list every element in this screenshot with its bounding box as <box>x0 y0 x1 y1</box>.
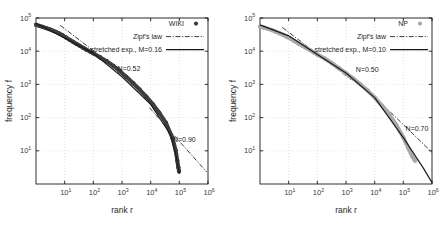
y-tick-label: 102 <box>20 112 31 122</box>
x-tick-label: 106 <box>428 187 439 197</box>
legend-label-stretched: stretched exp., M=0.10 <box>315 46 387 54</box>
y-tick-label: 102 <box>244 112 255 122</box>
gridlines <box>260 18 432 184</box>
y-tick-label: 103 <box>244 79 255 89</box>
legend-label-data: NP <box>398 20 408 27</box>
y-tick-label: 104 <box>20 46 31 56</box>
y-tick-label: 103 <box>20 79 31 89</box>
chart-svg-left: 101102103104105106101102103104105rank rf… <box>0 0 223 239</box>
figure-zipf-plots: 101102103104105106101102103104105rank rf… <box>0 0 447 239</box>
y-tick-label: 101 <box>20 145 31 155</box>
x-tick-label: 102 <box>313 187 324 197</box>
x-tick-label: 103 <box>342 187 353 197</box>
legend-marker-data <box>194 22 198 26</box>
legend-marker-data <box>418 22 422 26</box>
data-point <box>413 159 417 163</box>
legend-label-zipf: Zipf's law <box>133 33 163 41</box>
y-tick-label: 101 <box>244 145 255 155</box>
x-axis-title: rank r <box>335 205 357 215</box>
chart-svg-right: 101102103104105106101102103104105rank rf… <box>224 0 447 239</box>
annotation-label-2: N=0.70 <box>406 125 429 132</box>
legend-label-data: WIKI <box>169 20 184 27</box>
x-tick-label: 105 <box>399 187 410 197</box>
x-tick-label: 105 <box>175 187 186 197</box>
gridlines <box>36 18 208 184</box>
y-axis-title: frequency f <box>228 79 238 122</box>
x-tick-label: 101 <box>284 187 295 197</box>
x-axis-title: rank r <box>111 205 133 215</box>
y-tick-label: 105 <box>20 12 31 22</box>
x-tick-label: 103 <box>118 187 129 197</box>
annotations: N=0.52N=0.90 <box>118 65 196 144</box>
annotation-label-2: N=0.90 <box>173 136 196 143</box>
legend-label-stretched: stretched exp., M=0.16 <box>91 46 163 54</box>
y-tick-label: 105 <box>244 12 255 22</box>
axis-ticks: 101102103104105106101102103104105 <box>20 12 215 197</box>
annotation-label-1: N=0.50 <box>356 66 379 73</box>
x-tick-label: 104 <box>370 187 381 197</box>
x-tick-label: 102 <box>89 187 100 197</box>
legend-label-zipf: Zipf's law <box>357 33 387 41</box>
y-tick-label: 104 <box>244 46 255 56</box>
legend: WIKIZipf's lawstretched exp., M=0.16 <box>91 20 204 54</box>
x-tick-label: 104 <box>146 187 157 197</box>
x-tick-label: 106 <box>204 187 215 197</box>
legend: NPZipf's lawstretched exp., M=0.10 <box>315 20 428 54</box>
x-tick-label: 101 <box>60 187 71 197</box>
annotation-label-1: N=0.52 <box>118 65 141 72</box>
chart-panel-right: 101102103104105106101102103104105rank rf… <box>224 0 447 239</box>
y-axis-title: frequency f <box>4 79 14 122</box>
chart-panel-left: 101102103104105106101102103104105rank rf… <box>0 0 223 239</box>
axis-ticks: 101102103104105106101102103104105 <box>244 12 439 197</box>
